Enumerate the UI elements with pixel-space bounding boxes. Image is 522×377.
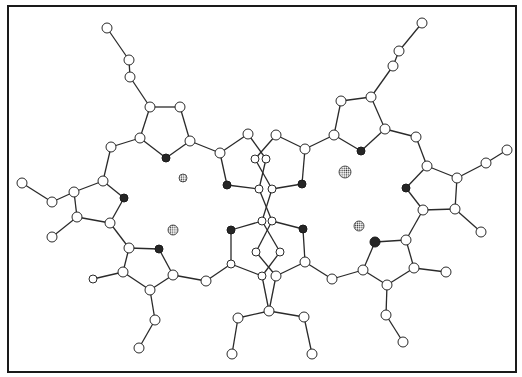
nitrogen-atom xyxy=(357,147,365,155)
carbon-atom xyxy=(102,23,112,33)
carbon-atom xyxy=(398,337,408,347)
carbon-atom xyxy=(252,248,260,256)
carbon-atom xyxy=(264,306,274,316)
carbon-atom xyxy=(47,197,57,207)
metal-center-atom xyxy=(168,225,178,235)
carbon-atom xyxy=(47,232,57,242)
carbon-atom xyxy=(388,61,398,71)
carbon-atom xyxy=(441,267,451,277)
metal-center-atom xyxy=(354,221,364,231)
bond xyxy=(231,264,262,276)
metal-center-atom xyxy=(179,174,187,182)
carbon-atom xyxy=(276,248,284,256)
carbon-atom xyxy=(409,263,419,273)
carbon-atom xyxy=(145,102,155,112)
nitrogen-atom xyxy=(299,225,307,233)
carbon-atom xyxy=(145,285,155,295)
carbon-atom xyxy=(381,310,391,320)
carbon-atom xyxy=(380,124,390,134)
carbon-atom xyxy=(268,217,276,225)
carbon-atom xyxy=(258,217,266,225)
bond xyxy=(272,221,303,229)
carbon-atom xyxy=(422,161,432,171)
carbon-atom xyxy=(401,235,411,245)
carbon-atom xyxy=(251,155,259,163)
carbon-atom xyxy=(72,212,82,222)
nitrogen-atom xyxy=(223,181,231,189)
carbon-atom xyxy=(255,185,263,193)
carbon-atom xyxy=(98,176,108,186)
carbon-atom xyxy=(69,187,79,197)
carbon-atom xyxy=(327,274,337,284)
metal-centers-layer xyxy=(168,166,364,235)
nitrogen-atom xyxy=(402,184,410,192)
carbon-atom xyxy=(215,148,225,158)
carbon-atom xyxy=(175,102,185,112)
carbon-atom xyxy=(300,257,310,267)
metal-center-atom xyxy=(339,166,351,178)
bonds-layer xyxy=(22,23,507,354)
carbon-atom xyxy=(450,204,460,214)
nitrogen-atom xyxy=(227,226,235,234)
carbon-atom xyxy=(358,265,368,275)
carbon-atom xyxy=(105,218,115,228)
carbon-atom xyxy=(125,72,135,82)
bond xyxy=(259,159,266,189)
nitrogen-atom xyxy=(155,245,163,253)
carbon-atom xyxy=(411,132,421,142)
bond xyxy=(272,184,302,189)
carbon-atom xyxy=(135,133,145,143)
carbon-atom xyxy=(502,145,512,155)
bond xyxy=(231,221,262,230)
carbon-atom xyxy=(233,313,243,323)
carbon-atom xyxy=(329,130,339,140)
carbon-atom xyxy=(150,315,160,325)
carbon-atom xyxy=(307,349,317,359)
carbon-atom xyxy=(417,18,427,28)
carbon-atom xyxy=(271,130,281,140)
carbon-atom xyxy=(168,270,178,280)
carbon-atom xyxy=(134,343,144,353)
carbon-atom xyxy=(243,129,253,139)
carbon-atom xyxy=(258,272,266,280)
carbon-atom xyxy=(271,271,281,281)
nitrogen-atom xyxy=(298,180,306,188)
carbon-atom xyxy=(201,276,211,286)
carbon-atom xyxy=(185,136,195,146)
carbon-atom xyxy=(227,260,235,268)
carbon-atom xyxy=(299,312,309,322)
bond xyxy=(107,28,129,60)
carbon-atom xyxy=(106,142,116,152)
nitrogen-atom xyxy=(120,194,128,202)
bond xyxy=(255,159,272,189)
carbon-atom xyxy=(382,280,392,290)
carbon-atom xyxy=(481,158,491,168)
carbon-atom xyxy=(418,205,428,215)
atoms-layer xyxy=(17,18,512,359)
molecular-diagram xyxy=(0,0,522,377)
carbon-atom xyxy=(124,55,134,65)
nitrogen-atom xyxy=(370,237,380,247)
nitrogen-atom xyxy=(162,154,170,162)
carbon-atom xyxy=(89,275,97,283)
carbon-atom xyxy=(394,46,404,56)
molecule-canvas xyxy=(0,0,522,377)
bond xyxy=(227,185,259,189)
carbon-atom xyxy=(124,243,134,253)
carbon-atom xyxy=(366,92,376,102)
bond xyxy=(304,317,312,354)
carbon-atom xyxy=(227,349,237,359)
carbon-atom xyxy=(268,185,276,193)
carbon-atom xyxy=(262,155,270,163)
bond xyxy=(371,66,393,97)
carbon-atom xyxy=(476,227,486,237)
carbon-atom xyxy=(336,96,346,106)
carbon-atom xyxy=(300,144,310,154)
carbon-atom xyxy=(118,267,128,277)
carbon-atom xyxy=(452,173,462,183)
carbon-atom xyxy=(17,178,27,188)
